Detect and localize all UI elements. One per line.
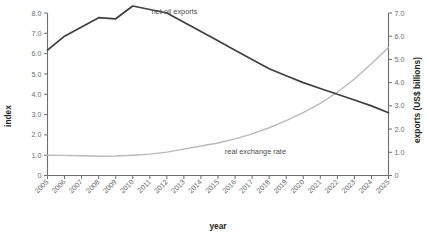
x-tick-label: 2019 — [271, 178, 289, 196]
right-axis-title: exports (US$ billions) — [412, 57, 422, 143]
series-annotation-real-exchange-rate: real exchange rate — [225, 147, 286, 156]
x-tick-label: 2011 — [135, 178, 152, 195]
x-tick-label: 2010 — [118, 178, 136, 196]
x-axis-ticks: 2005200620072008200920102011201220132014… — [33, 176, 392, 196]
left-tick-label: 1.0 — [32, 151, 42, 160]
right-tick-label: 2.0 — [395, 125, 405, 134]
x-tick-label: 2012 — [152, 178, 170, 196]
chart-container: index exports (US$ billions) year 01.02.… — [0, 0, 428, 233]
left-tick-label: 3.0 — [32, 110, 42, 119]
x-tick-label: 2014 — [186, 178, 204, 196]
x-tick-label: 2021 — [306, 178, 324, 196]
right-tick-label: 4.0 — [395, 78, 405, 87]
x-tick-label: 2017 — [237, 178, 255, 196]
x-tick-label: 2016 — [220, 178, 238, 196]
series-annotation-net-oil-exports: net oil exports — [152, 7, 198, 16]
left-tick-label: 0 — [38, 171, 42, 180]
series-line-net-oil-exports — [48, 6, 389, 113]
right-tick-label: 3.0 — [395, 101, 405, 110]
left-tick-label: 6.0 — [32, 49, 42, 58]
x-tick-label: 2025 — [374, 178, 392, 196]
x-tick-label: 2015 — [203, 178, 221, 196]
left-tick-label: 2.0 — [32, 130, 42, 139]
x-tick-label: 2022 — [323, 178, 341, 196]
left-tick-label: 7.0 — [32, 29, 42, 38]
right-axis-ticks: 01.02.03.04.05.06.07.0 — [389, 9, 405, 181]
x-tick-label: 2013 — [169, 178, 187, 196]
x-tick-label: 2006 — [50, 178, 68, 196]
x-tick-label: 2023 — [340, 178, 358, 196]
x-tick-label: 2009 — [101, 178, 119, 196]
left-tick-label: 5.0 — [32, 70, 42, 79]
x-axis-title: year — [209, 221, 227, 231]
series-line-real-exchange-rate — [48, 48, 389, 157]
right-tick-label: 6.0 — [395, 32, 405, 41]
x-tick-label: 2007 — [67, 178, 85, 196]
x-tick-label: 2024 — [357, 178, 375, 196]
x-tick-label: 2020 — [288, 178, 306, 196]
left-tick-label: 8.0 — [32, 9, 42, 18]
left-tick-label: 4.0 — [32, 90, 42, 99]
left-axis-ticks: 01.02.03.04.05.06.07.08.0 — [32, 9, 48, 181]
x-tick-label: 2018 — [254, 178, 272, 196]
left-axis-title: index — [3, 105, 13, 127]
dual-axis-line-chart: index exports (US$ billions) year 01.02.… — [0, 0, 428, 233]
x-tick-label: 2005 — [33, 178, 51, 196]
right-tick-label: 0 — [395, 171, 399, 180]
right-tick-label: 7.0 — [395, 9, 405, 18]
x-tick-label: 2008 — [84, 178, 102, 196]
right-tick-label: 5.0 — [395, 55, 405, 64]
right-tick-label: 1.0 — [395, 148, 405, 157]
